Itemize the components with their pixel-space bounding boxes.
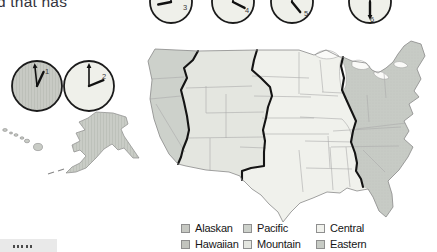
clock-digit: 5 bbox=[304, 9, 308, 18]
cutoff-text-marks bbox=[30, 245, 32, 248]
figure-canvas: 123456 d that has Alaskan Pacific Centra… bbox=[0, 0, 437, 252]
clock-digit: 1 bbox=[45, 67, 49, 76]
clock-1: 1 bbox=[12, 61, 62, 111]
cutoff-paragraph-text: d that has bbox=[0, 0, 67, 11]
clock-digit: 4 bbox=[245, 6, 249, 15]
clock-4: 4 bbox=[212, 0, 254, 23]
clock-3: 3 bbox=[150, 0, 192, 23]
cropped-caption-box bbox=[0, 239, 57, 252]
clock-digit: 2 bbox=[102, 72, 106, 81]
state-alaska bbox=[48, 112, 139, 174]
us-timezone-figure: 123456 bbox=[0, 0, 437, 252]
hawaii-island bbox=[14, 134, 18, 137]
hawaii-island bbox=[9, 132, 12, 134]
cutoff-text-marks bbox=[21, 245, 23, 248]
cutoff-text-marks bbox=[13, 245, 15, 248]
hawaii-island bbox=[24, 139, 29, 143]
hawaii-island bbox=[34, 143, 43, 150]
clock-digit: 3 bbox=[183, 3, 187, 12]
cutoff-text-marks bbox=[26, 245, 28, 248]
aleutian-islands bbox=[48, 169, 64, 174]
lower-48-map bbox=[148, 41, 425, 222]
clock-digit: 6 bbox=[370, 15, 374, 24]
clock-5: 5 bbox=[271, 0, 313, 23]
cutoff-text-marks bbox=[17, 245, 19, 248]
clock-2: 2 bbox=[64, 61, 114, 111]
hawaii-island bbox=[20, 137, 24, 139]
clock-6: 6 bbox=[349, 0, 391, 24]
hawaii-island bbox=[3, 129, 8, 132]
hawaiian-islands bbox=[3, 129, 43, 151]
